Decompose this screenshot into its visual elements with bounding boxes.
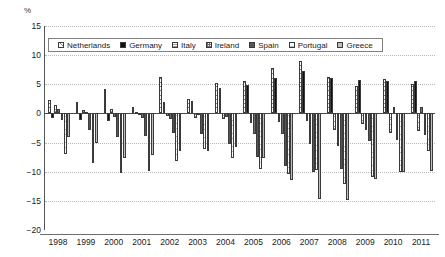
y-axis-tick-label: −10 <box>15 167 41 177</box>
spain-swatch <box>249 42 255 48</box>
y-axis-tick-label: −15 <box>15 196 41 206</box>
x-axis-tick-label: 2007 <box>300 237 319 247</box>
x-axis-tick-label: 2011 <box>412 237 430 247</box>
netherlands-swatch <box>58 42 64 48</box>
y-axis-unit-label: % <box>24 6 31 15</box>
legend-item-italy[interactable]: Italy <box>172 41 196 50</box>
x-axis-tick-label: 1999 <box>76 237 95 247</box>
legend-label: Spain <box>258 41 278 50</box>
legend-label: Italy <box>181 41 196 50</box>
y-axis-tick-label: 0 <box>15 108 41 118</box>
x-axis-tick-label: 2010 <box>384 237 403 247</box>
x-axis-tick-label: 2003 <box>188 237 207 247</box>
portugal-swatch <box>289 42 295 48</box>
plot-area: 151050−5−10−15−20 <box>44 26 435 230</box>
x-axis-tick-label: 2006 <box>272 237 291 247</box>
y-axis-tick-label: 10 <box>15 50 41 60</box>
legend-label: Greece <box>346 41 372 50</box>
italy-swatch <box>172 42 178 48</box>
germany-swatch <box>120 42 126 48</box>
x-axis-tick-label: 1998 <box>48 237 67 247</box>
ireland-swatch <box>206 42 212 48</box>
legend-item-spain[interactable]: Spain <box>249 41 278 50</box>
x-axis-ticks: 1998199920002001200220032004200520062007… <box>44 237 435 253</box>
x-axis-tick-label: 2000 <box>104 237 123 247</box>
legend-item-germany[interactable]: Germany <box>120 41 162 50</box>
x-axis-tick-label: 2008 <box>328 237 347 247</box>
y-axis-tick-label: −20 <box>15 225 41 235</box>
y-axis-tick-label: 15 <box>15 21 41 31</box>
x-axis-tick-label: 2005 <box>244 237 263 247</box>
chart-legend: NetherlandsGermanyItalyIrelandSpainPortu… <box>48 38 383 52</box>
legend-label: Portugal <box>298 41 328 50</box>
x-axis-tick-label: 2001 <box>132 237 151 247</box>
y-axis-tick-label: 5 <box>15 79 41 89</box>
x-axis-tick-label: 2004 <box>216 237 235 247</box>
y-axis-tick-label: −5 <box>15 138 41 148</box>
legend-item-portugal[interactable]: Portugal <box>289 41 328 50</box>
x-axis-tick-label: 2002 <box>160 237 179 247</box>
legend-label: Ireland <box>215 41 239 50</box>
legend-label: Netherlands <box>67 41 110 50</box>
legend-item-netherlands[interactable]: Netherlands <box>58 41 110 50</box>
legend-item-ireland[interactable]: Ireland <box>206 41 239 50</box>
x-axis-line <box>40 234 439 235</box>
y-axis-ticks: 151050−5−10−15−20 <box>45 26 435 230</box>
legend-item-greece[interactable]: Greece <box>337 41 372 50</box>
x-axis-tick-label: 2009 <box>356 237 375 247</box>
greece-swatch <box>337 42 343 48</box>
chart-container: % 151050−5−10−15−20 19981999200020012002… <box>0 0 445 257</box>
legend-label: Germany <box>129 41 162 50</box>
